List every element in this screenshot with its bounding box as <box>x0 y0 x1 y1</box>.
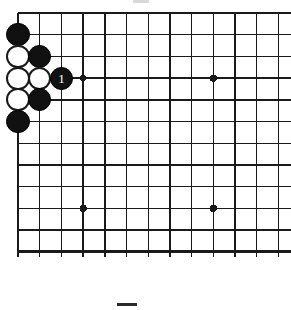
white-stone[interactable] <box>28 67 51 90</box>
white-stone[interactable] <box>6 67 29 90</box>
star-point <box>210 205 217 212</box>
black-stone[interactable] <box>6 110 29 133</box>
numbered-stone[interactable]: 1 <box>50 67 73 90</box>
move-number-label: 1 <box>58 72 65 85</box>
star-point <box>80 205 87 212</box>
go-board[interactable]: 1 <box>0 0 291 275</box>
board-grid <box>0 0 291 275</box>
black-stone[interactable] <box>6 23 29 46</box>
bottom-dash-mark <box>117 303 137 306</box>
star-point <box>80 75 86 81</box>
white-stone[interactable] <box>6 88 29 111</box>
go-diagram: 1 <box>0 0 291 310</box>
star-point <box>210 75 217 82</box>
white-stone[interactable] <box>6 45 29 68</box>
top-edge-smudge <box>133 0 149 3</box>
